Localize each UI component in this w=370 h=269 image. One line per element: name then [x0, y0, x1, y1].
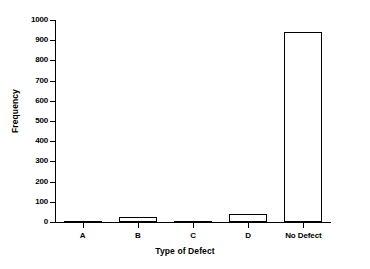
y-axis-tick-label: 800 — [2, 56, 48, 64]
y-axis-tick-mark — [50, 81, 55, 82]
bar — [174, 221, 212, 223]
y-axis-tick-label: 900 — [2, 36, 48, 44]
x-axis-title: Type of Defect — [0, 246, 370, 256]
bar-chart: Frequency 010020030040050060070080090010… — [0, 0, 370, 269]
y-axis-tick-label-wrap: 1000 — [0, 16, 48, 24]
y-axis-tick-label: 300 — [2, 157, 48, 165]
y-axis-tick-mark — [50, 101, 55, 102]
x-axis-tick-label: B — [110, 231, 165, 240]
y-axis-tick-mark — [50, 182, 55, 183]
x-axis-tick-label: No Defect — [276, 231, 331, 240]
x-axis-tick-mark — [303, 223, 304, 228]
x-axis-tick-mark — [248, 223, 249, 228]
bar — [64, 221, 102, 223]
y-axis-title: Frequency — [8, 0, 22, 222]
y-axis-tick-label-wrap: 100 — [0, 198, 48, 206]
bar — [284, 32, 322, 222]
x-axis-tick-label: A — [55, 231, 110, 240]
y-axis-tick-mark — [50, 40, 55, 41]
x-axis-tick-label: C — [165, 231, 220, 240]
y-axis-tick-mark — [50, 141, 55, 142]
y-axis-tick-mark — [50, 121, 55, 122]
y-axis-tick-mark — [50, 20, 55, 21]
y-axis-tick-label-wrap: 900 — [0, 36, 48, 44]
y-axis-tick-label-wrap: 300 — [0, 157, 48, 165]
bar — [229, 214, 267, 222]
x-axis-tick-mark — [138, 223, 139, 228]
y-axis-line — [55, 20, 56, 223]
y-axis-tick-mark — [50, 60, 55, 61]
y-axis-tick-label-wrap: 600 — [0, 97, 48, 105]
y-axis-tick-label: 600 — [2, 97, 48, 105]
y-axis-tick-label: 200 — [2, 178, 48, 186]
y-axis-title-text: Frequency — [10, 89, 20, 133]
y-axis-tick-label: 0 — [2, 218, 48, 226]
y-axis-tick-label: 1000 — [2, 16, 48, 24]
y-axis-tick-label-wrap: 800 — [0, 56, 48, 64]
y-axis-tick-label-wrap: 700 — [0, 77, 48, 85]
y-axis-tick-label-wrap: 200 — [0, 178, 48, 186]
x-axis-tick-mark — [83, 223, 84, 228]
y-axis-tick-label: 700 — [2, 77, 48, 85]
y-axis-tick-label: 500 — [2, 117, 48, 125]
y-axis-tick-mark — [50, 161, 55, 162]
y-axis-tick-label: 400 — [2, 137, 48, 145]
y-axis-tick-label-wrap: 500 — [0, 117, 48, 125]
y-axis-tick-label-wrap: 0 — [0, 218, 48, 226]
bar — [119, 217, 157, 222]
y-axis-tick-label-wrap: 400 — [0, 137, 48, 145]
x-axis-tick-mark — [193, 223, 194, 228]
y-axis-tick-mark — [50, 202, 55, 203]
y-axis-tick-label: 100 — [2, 198, 48, 206]
x-axis-tick-label: D — [221, 231, 276, 240]
y-axis-tick-mark — [50, 222, 55, 223]
